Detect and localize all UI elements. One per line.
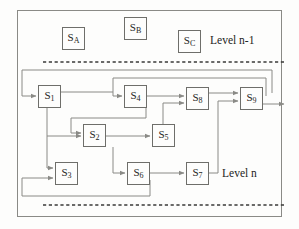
node-S3-label: S3 bbox=[61, 167, 71, 180]
node-S7-label: S7 bbox=[192, 167, 202, 180]
node-SC-label: SC bbox=[184, 35, 195, 48]
edge-S1-to-S3 bbox=[47, 136, 53, 168]
node-SA-label: SA bbox=[68, 32, 80, 45]
edge-S1-to-S2 bbox=[47, 108, 81, 136]
node-S3[interactable]: S3 bbox=[55, 162, 78, 185]
node-S7[interactable]: S7 bbox=[186, 162, 209, 185]
node-S5[interactable]: S5 bbox=[152, 124, 175, 147]
node-S4-label: S4 bbox=[130, 90, 140, 103]
node-S1-label: S1 bbox=[44, 90, 54, 103]
node-SB[interactable]: SB bbox=[124, 17, 147, 40]
node-S8[interactable]: S8 bbox=[186, 87, 209, 110]
node-S9[interactable]: S9 bbox=[240, 87, 263, 110]
edge-S7-to-S9 bbox=[209, 101, 238, 173]
diagram-canvas: SA SB SC S1 S4 S8 S9 S2 S5 S3 S6 S7 Leve… bbox=[0, 0, 299, 229]
node-S6[interactable]: S6 bbox=[127, 162, 150, 185]
node-S5-label: S5 bbox=[158, 129, 168, 142]
node-SC[interactable]: SC bbox=[178, 30, 201, 53]
node-S9-label: S9 bbox=[246, 92, 256, 105]
edge-S5-to-S8 bbox=[163, 103, 184, 124]
node-S2-label: S2 bbox=[89, 129, 99, 142]
node-SB-label: SB bbox=[130, 22, 141, 35]
node-S6-label: S6 bbox=[133, 167, 143, 180]
node-SA[interactable]: SA bbox=[62, 27, 85, 50]
node-S8-label: S8 bbox=[192, 92, 202, 105]
node-S4[interactable]: S4 bbox=[124, 85, 147, 108]
level-lower-label: Level n bbox=[222, 167, 257, 179]
level-upper-label: Level n-1 bbox=[210, 34, 254, 46]
node-S2[interactable]: S2 bbox=[83, 124, 106, 147]
edge-S2-to-S6 bbox=[113, 147, 125, 173]
node-S1[interactable]: S1 bbox=[38, 85, 61, 108]
